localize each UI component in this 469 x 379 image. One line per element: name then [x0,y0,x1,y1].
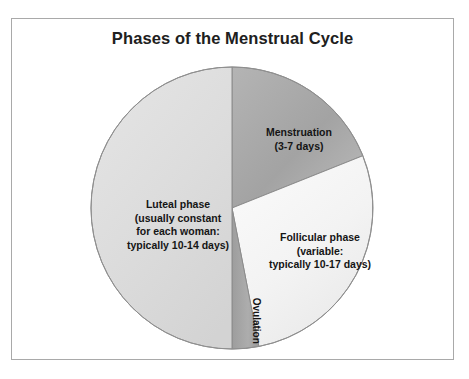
pie-label-follicular-line-2: (variable: [259,245,381,259]
pie-label-menstruation-line-2: (3-7 days) [240,140,358,154]
pie-label-ovulation-line-1: Ovulation [249,285,263,357]
pie-label-follicular-line-1: Follicular phase [259,231,381,245]
chart-frame: Phases of the Menstrual Cycle [11,18,454,360]
pie-label-luteal-line-3: for each woman: [112,225,244,239]
pie-label-ovulation: Ovulation [249,285,263,357]
pie-label-luteal-line-2: (usually constant [112,212,244,226]
pie-label-menstruation: Menstruation (3-7 days) [240,126,358,153]
pie-label-follicular: Follicular phase (variable: typically 10… [259,231,381,272]
pie-chart [12,19,455,361]
pie-label-luteal-line-4: typically 10-14 days) [112,239,244,253]
pie-label-follicular-line-3: typically 10-17 days) [259,258,381,272]
figure-canvas: Phases of the Menstrual Cycle [0,0,469,379]
pie-label-luteal: Luteal phase (usually constant for each … [112,198,244,252]
pie-label-menstruation-line-1: Menstruation [240,126,358,140]
pie-label-luteal-line-1: Luteal phase [112,198,244,212]
